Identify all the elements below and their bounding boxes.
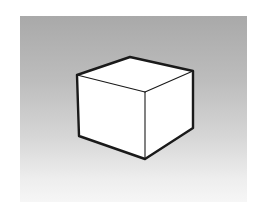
cube-illustration <box>0 0 261 212</box>
